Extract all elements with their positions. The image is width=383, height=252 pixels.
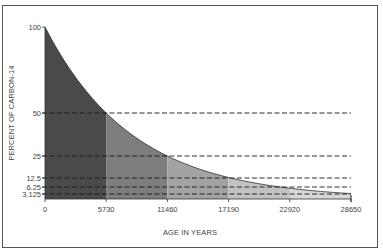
x-axis-title: AGE IN YEARS <box>163 228 217 237</box>
half-life-band <box>167 156 228 199</box>
y-axis-title: PERCENT OF CARBON-14 <box>7 65 16 160</box>
x-tick-label: 17190 <box>218 205 239 214</box>
y-axis-ticks: 100502512.56.253.125 <box>22 23 45 199</box>
half-life-band <box>229 178 290 200</box>
x-tick-label: 22920 <box>279 205 300 214</box>
y-tick-label: 3.125 <box>22 190 41 199</box>
y-tick-label: 100 <box>28 23 41 32</box>
y-tick-label: 12.5 <box>26 174 41 183</box>
x-tick-label: 5730 <box>98 205 115 214</box>
decay-chart: 100502512.56.253.125 0573011460171902292… <box>0 0 383 252</box>
x-tick-label: 28650 <box>341 205 362 214</box>
y-tick-label: 25 <box>33 152 41 161</box>
x-tick-label: 0 <box>43 205 47 214</box>
x-tick-label: 11460 <box>157 205 177 214</box>
y-tick-label: 50 <box>33 109 41 118</box>
x-axis-ticks: 0573011460171902292028650 <box>43 199 362 214</box>
